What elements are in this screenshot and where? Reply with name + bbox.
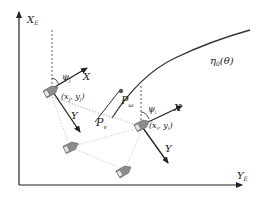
vessel-i-position-label: (xi, yi) (149, 121, 173, 131)
virtual-point-label: Pv (95, 116, 107, 130)
path-label: η0(θ) (210, 55, 234, 67)
diagram-svg: XE YE η0(θ) Pv Pω ψj X Y (xj, yj) ψi X Y… (0, 0, 262, 200)
vessel-j-body-y-label: Y (71, 110, 79, 121)
x-earth-label: XE (26, 14, 39, 26)
vessel-4-ship-icon (116, 164, 133, 178)
vessel-i-body-x-label: X (173, 102, 182, 113)
omega-point-label: Pω (120, 94, 133, 108)
vessel-3-ship-icon (63, 140, 80, 154)
y-earth-label: YE (237, 170, 249, 182)
omega-point (119, 89, 123, 93)
formation-diagram: XE YE η0(θ) Pv Pω ψj X Y (xj, yj) ψi X Y… (0, 0, 262, 200)
vessel-j-heading-arc (52, 78, 59, 84)
vessel-i-heading-label: ψi (148, 104, 157, 115)
vessel-j-body-x-label: X (82, 71, 91, 82)
vessel-i-body-y-label: Y (165, 143, 173, 154)
